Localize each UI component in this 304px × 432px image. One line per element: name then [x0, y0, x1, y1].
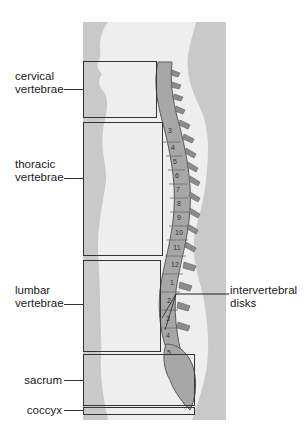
disks-label: intervertebral disks — [230, 284, 297, 310]
sacrum-leader — [64, 380, 83, 381]
thoracic-8: 8 — [177, 200, 181, 207]
lumbar-1: 1 — [170, 279, 174, 286]
thoracic-5: 5 — [173, 158, 177, 165]
sacrum-box — [83, 354, 195, 406]
lumbar-label: lumbar vertebrae — [15, 284, 64, 310]
thoracic-7: 7 — [176, 186, 180, 193]
thoracic-leader — [64, 178, 83, 179]
coccyx-leader — [64, 410, 83, 411]
thoracic-6: 6 — [175, 172, 179, 179]
cervical-box — [83, 61, 157, 118]
thoracic-3: 3 — [168, 127, 172, 134]
sacrum-label: sacrum — [15, 374, 62, 387]
thoracic-4: 4 — [171, 144, 175, 151]
lumbar-leader — [64, 304, 83, 305]
thoracic-12: 12 — [171, 261, 179, 268]
cervical-leader — [64, 89, 83, 90]
coccyx-box — [83, 407, 195, 415]
lumbar-4: 4 — [166, 332, 170, 339]
cervical-label: cervical vertebrae — [15, 70, 64, 96]
thoracic-label: thoracic vertebrae — [15, 158, 64, 184]
thoracic-box — [83, 122, 163, 256]
thoracic-11: 11 — [173, 244, 180, 251]
lumbar-box — [83, 260, 161, 352]
thoracic-9: 9 — [177, 214, 181, 221]
thoracic-10: 10 — [175, 229, 183, 236]
coccyx-label: coccyx — [15, 404, 62, 417]
